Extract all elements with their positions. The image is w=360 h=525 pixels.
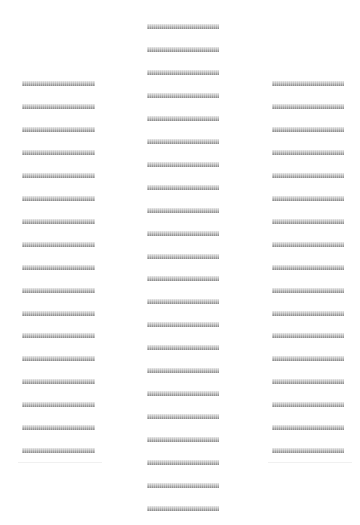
placeholder-line xyxy=(22,265,95,270)
placeholder-line xyxy=(147,299,219,304)
placeholder-line xyxy=(22,150,95,155)
placeholder-line xyxy=(22,379,95,384)
placeholder-line xyxy=(147,254,219,259)
placeholder-line xyxy=(147,483,219,488)
placeholder-line xyxy=(272,173,344,178)
placeholder-line xyxy=(272,265,344,270)
placeholder-line xyxy=(272,81,344,86)
placeholder-line xyxy=(272,150,344,155)
placeholder-line xyxy=(272,356,344,361)
placeholder-line xyxy=(22,219,95,224)
right-column-divider xyxy=(268,462,352,463)
placeholder-line xyxy=(272,448,344,453)
placeholder-line xyxy=(147,322,219,327)
placeholder-line xyxy=(272,127,344,132)
placeholder-line xyxy=(22,104,95,109)
placeholder-line xyxy=(147,276,219,281)
placeholder-line xyxy=(22,196,95,201)
placeholder-line xyxy=(272,379,344,384)
placeholder-line xyxy=(147,70,219,75)
placeholder-line xyxy=(22,173,95,178)
placeholder-line xyxy=(22,288,95,293)
placeholder-line xyxy=(272,219,344,224)
placeholder-line xyxy=(147,162,219,167)
placeholder-line xyxy=(272,402,344,407)
placeholder-line xyxy=(147,414,219,419)
placeholder-line xyxy=(147,391,219,396)
placeholder-line xyxy=(22,127,95,132)
placeholder-line xyxy=(272,288,344,293)
placeholder-line xyxy=(147,139,219,144)
placeholder-line xyxy=(272,425,344,430)
placeholder-line xyxy=(22,425,95,430)
placeholder-line xyxy=(147,460,219,465)
placeholder-line xyxy=(22,402,95,407)
placeholder-line xyxy=(22,448,95,453)
placeholder-line xyxy=(272,242,344,247)
placeholder-line xyxy=(147,506,219,511)
placeholder-line xyxy=(147,368,219,373)
placeholder-line xyxy=(147,93,219,98)
placeholder-line xyxy=(147,208,219,213)
placeholder-line xyxy=(22,333,95,338)
placeholder-line xyxy=(272,333,344,338)
placeholder-line xyxy=(147,24,219,29)
placeholder-line xyxy=(147,47,219,52)
placeholder-line xyxy=(22,311,95,316)
placeholder-line xyxy=(147,231,219,236)
placeholder-line xyxy=(147,437,219,442)
placeholder-line xyxy=(272,196,344,201)
placeholder-line xyxy=(147,185,219,190)
placeholder-line xyxy=(22,81,95,86)
placeholder-line xyxy=(22,356,95,361)
placeholder-line xyxy=(272,311,344,316)
placeholder-line xyxy=(22,242,95,247)
placeholder-line xyxy=(272,104,344,109)
placeholder-line xyxy=(147,345,219,350)
left-column-divider xyxy=(18,462,102,463)
placeholder-line xyxy=(147,116,219,121)
